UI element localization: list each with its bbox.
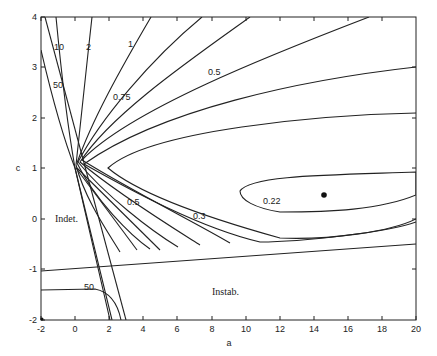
x-tick-label: 18 [377,324,387,334]
x-tick-label: 6 [174,324,179,334]
contour-label: 0.5 [127,197,140,207]
corner-point-marker [41,318,44,321]
fan-line [77,168,160,250]
plot-area-frame [41,17,416,320]
y-tick-label: 3 [32,62,37,72]
contour-label: 0.3 [193,211,206,221]
x-tick-label: -2 [37,324,45,334]
instability-region-label: Instab. [212,286,239,297]
x-tick-label: 20 [411,324,421,334]
y-tick-label: 4 [32,12,37,22]
contour-chart: -2 0 2 4 6 8 10 12 14 16 18 20 a -2 -1 0… [0,0,437,356]
contour-0-22 [240,172,416,212]
contour-50-upper [41,50,112,320]
y-tick-label: -2 [29,315,37,325]
indeterminacy-region-label: Indet. [55,213,78,224]
y-tick-label: -1 [29,264,37,274]
x-tick-label: 8 [209,324,214,334]
contour-0-3 [108,113,416,238]
contour-label: 0.5 [208,67,221,77]
y-axis-label: c [16,163,21,173]
indeterminacy-boundary-line [45,17,126,320]
x-tick-label: 16 [343,324,353,334]
optimum-point-marker [321,192,327,198]
x-tick-label: 2 [106,324,111,334]
contour-curves [41,17,416,320]
x-tick-label: 4 [140,324,145,334]
x-tick-label: 10 [241,324,251,334]
x-tick-label: 12 [275,324,285,334]
contour-label: 1 [128,39,133,49]
contour-label: 50 [53,80,63,90]
y-tick-label: 1 [32,163,37,173]
contour-label: 10 [54,42,64,52]
contour-label: 50 [84,282,94,292]
contour-label: 0.22 [263,196,281,206]
contour-label: 2 [86,42,91,52]
x-axis: -2 0 2 4 6 8 10 12 14 16 18 20 a [37,17,421,348]
y-tick-label: 0 [32,214,37,224]
x-tick-label: 14 [309,324,319,334]
y-tick-label: 2 [32,113,37,123]
x-tick-label: 0 [72,324,77,334]
x-axis-label: a [226,338,231,348]
contour-label: 0.75 [113,92,131,102]
